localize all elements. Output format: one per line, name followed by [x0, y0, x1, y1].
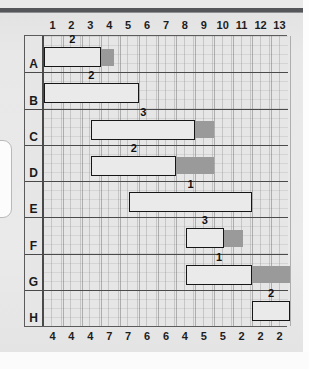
clipped-callout-box [0, 140, 12, 218]
float-bar-f [224, 230, 243, 247]
task-resource-label-b: 2 [44, 70, 139, 81]
gantt-chart: ABCDEFGH 22321312 [24, 35, 287, 327]
task-bar-a[interactable] [44, 47, 101, 67]
float-bar-d [176, 157, 214, 174]
task-resource-label-c: 3 [91, 107, 195, 118]
task-bar-f[interactable] [186, 228, 224, 248]
row-label-f: F [25, 240, 42, 252]
task-resource-label-d: 2 [91, 143, 176, 154]
row-label-d: D [25, 167, 42, 179]
scanned-page: 12345678910111213 ABCDEFGH 22321312 4447… [0, 0, 309, 369]
scan-margin-right [303, 0, 309, 369]
row-label-e: E [25, 203, 42, 215]
grid-row-line [25, 217, 288, 218]
task-resource-label-f: 3 [186, 215, 224, 226]
task-resource-label-a: 2 [44, 34, 101, 45]
row-label-b: B [25, 95, 42, 107]
task-resource-label-h: 2 [252, 288, 290, 299]
task-bar-g[interactable] [186, 265, 252, 285]
task-resource-label-g: 1 [186, 252, 252, 263]
scan-margin-bottom [0, 352, 309, 369]
grid-column-line [290, 36, 291, 326]
task-resource-label-e: 1 [129, 179, 252, 190]
float-bar-a [101, 49, 114, 66]
grid-row-line [25, 290, 288, 291]
float-bar-c [195, 121, 214, 138]
task-bar-d[interactable] [91, 156, 176, 176]
row-label-h: H [25, 312, 42, 324]
row-label-g: G [25, 276, 42, 288]
float-bar-g [252, 266, 290, 283]
task-bar-e[interactable] [129, 192, 252, 212]
row-label-c: C [25, 131, 42, 143]
task-bar-c[interactable] [91, 120, 195, 140]
resource-total-period-13: 2 [266, 331, 293, 342]
row-label-a: A [25, 58, 42, 70]
top-axis-tick-13: 13 [266, 20, 293, 31]
task-bar-b[interactable] [44, 83, 139, 103]
task-bar-h[interactable] [252, 301, 290, 321]
